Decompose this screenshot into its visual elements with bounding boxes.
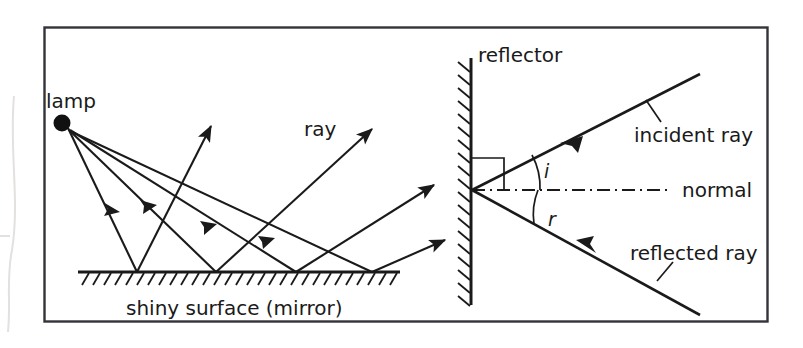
normal-label: normal [682, 178, 752, 202]
lamp-label: lamp [46, 89, 96, 113]
reflection-diagram: lamp ray shiny surface (mirror) [0, 0, 803, 348]
reflector-label: reflector [478, 43, 563, 67]
incident-ray-label: incident ray [634, 123, 753, 147]
angle-of-reflection-label: r [548, 208, 557, 230]
scan-edge-artifact [0, 96, 15, 332]
shiny-surface-label: shiny surface (mirror) [126, 296, 343, 320]
ray-label: ray [304, 117, 336, 141]
reflected-ray-label: reflected ray [630, 241, 758, 265]
figure-root: lamp ray shiny surface (mirror) [0, 0, 803, 348]
lamp-source-dot [54, 115, 71, 132]
angle-of-incidence-label: i [544, 160, 550, 182]
